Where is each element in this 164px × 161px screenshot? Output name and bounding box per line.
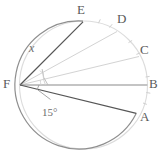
arc-tick-marks [99,19,151,104]
angle-label-15-degrees: 15° [42,107,57,118]
point-label-c: C [140,43,149,56]
point-label-e: E [77,3,85,16]
geometry-diagram: E D C B A F x 15° [0,0,164,161]
ray-f-c [20,57,139,86]
point-label-f: F [3,77,10,90]
angle-arcs-at-f [37,69,50,100]
geometry-canvas [0,0,164,161]
point-label-a: A [140,110,149,123]
angle-label-x: x [29,42,34,54]
point-label-b: B [149,77,158,90]
point-label-d: D [117,12,126,25]
